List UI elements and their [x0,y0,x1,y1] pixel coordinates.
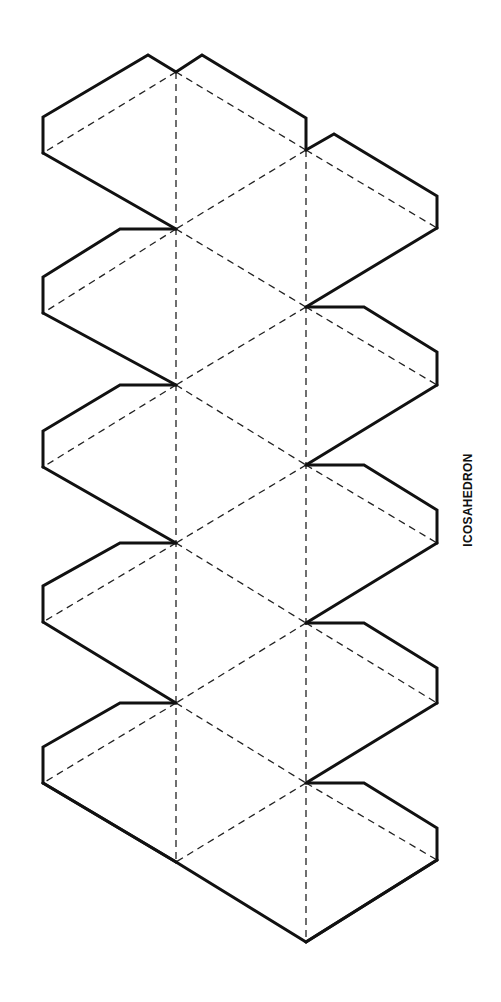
fold-line-tab [306,150,437,228]
fold-line-diagonal [176,72,306,150]
cut-edge-bottom [306,860,437,942]
fold-line-tab [306,465,437,543]
fold-lines [43,72,437,942]
fold-line-diagonal [176,783,306,862]
cut-edge-left [43,622,176,703]
fold-line-diagonal [176,543,306,623]
cut-edge-right [306,385,437,465]
cut-edge-left [43,313,176,385]
fold-line-tab [306,623,437,703]
fold-line-diagonal [176,229,306,307]
fold-line-tab [306,307,437,385]
fold-line-diagonal [176,150,306,229]
fold-line-diagonal [176,385,306,465]
cut-edge-left [43,467,176,543]
fold-line-tab [306,783,437,860]
glue-tab-top [176,55,306,150]
cut-edge-left [43,153,176,229]
cut-edge-bottom [176,862,306,942]
cut-edge-right [306,543,437,623]
fold-line-diagonal [176,623,306,703]
cut-edge-left [43,783,176,862]
fold-line-tab [43,543,176,622]
fold-line-tab [43,703,176,783]
glue-tab-left [43,55,176,153]
glue-tab-right [306,134,437,228]
cut-edge-right [306,703,437,783]
fold-line-tab [43,229,176,313]
diagram-label: ICOSAHEDRON [461,453,475,546]
fold-line-tab [43,72,176,153]
fold-line-diagonal [176,465,306,543]
cut-lines [43,55,437,942]
cut-edge-right [306,228,437,307]
fold-line-diagonal [176,307,306,385]
fold-line-diagonal [176,703,306,783]
icosahedron-net [0,0,501,1002]
fold-line-tab [43,385,176,467]
